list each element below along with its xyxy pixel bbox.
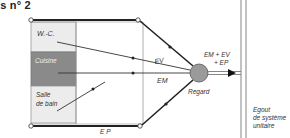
sewer-label-3: unitaire (253, 122, 275, 129)
gutter-node-icon (29, 18, 33, 22)
outlet-pipe (208, 69, 241, 77)
bathroom-label-1: Salle (36, 91, 51, 98)
em-label: EM (157, 77, 168, 84)
combined-flow-label-1: EM + EV (204, 51, 230, 58)
em-pipe-kitchen (58, 72, 190, 75)
bathroom-label-2: de bain (36, 100, 58, 107)
sewer-label-2: de système (253, 114, 287, 122)
ep-label: E P (100, 128, 111, 135)
manhole-icon (190, 64, 208, 82)
kitchen-label: Cuisine (35, 57, 57, 64)
wc-label: W.-C. (37, 30, 55, 37)
drainage-diagram: W.-C. Cuisine Salle de bain EV EM E P Re… (0, 0, 290, 138)
sewer-pipe (241, 0, 246, 138)
gutter-node-icon (29, 124, 33, 128)
manhole-label: Regard (188, 88, 210, 96)
wc-room (31, 22, 76, 52)
sewer-label-1: Egout (253, 106, 271, 114)
gutter-node-icon (136, 18, 140, 22)
combined-flow-label-2: + EP (214, 59, 229, 66)
ev-label: EV (154, 56, 166, 65)
flow-arrow-icon (228, 69, 236, 77)
